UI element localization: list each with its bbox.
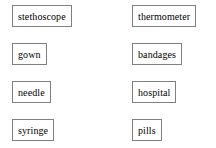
word-card-thermometer[interactable]: thermometer [132,5,196,27]
word-card-syringe[interactable]: syringe [12,119,54,141]
word-card-label: thermometer [138,12,190,22]
word-card-label: stethoscope [18,12,66,22]
word-card-label: needle [18,88,45,98]
word-card-label: syringe [18,126,48,136]
word-column-right: thermometer bandages hospital pills [132,5,196,141]
word-card-label: hospital [138,88,170,98]
word-column-left: stethoscope gown needle syringe [12,5,72,141]
word-card-label: pills [138,126,156,136]
word-card-hospital[interactable]: hospital [132,81,176,103]
word-card-label: gown [18,50,41,60]
word-card-label: bandages [138,50,176,60]
word-card-needle[interactable]: needle [12,81,51,103]
word-card-pills[interactable]: pills [132,119,162,141]
word-card-grid: stethoscope gown needle syringe thermome… [0,0,216,148]
word-card-gown[interactable]: gown [12,43,47,65]
word-card-bandages[interactable]: bandages [132,43,182,65]
word-card-stethoscope[interactable]: stethoscope [12,5,72,27]
